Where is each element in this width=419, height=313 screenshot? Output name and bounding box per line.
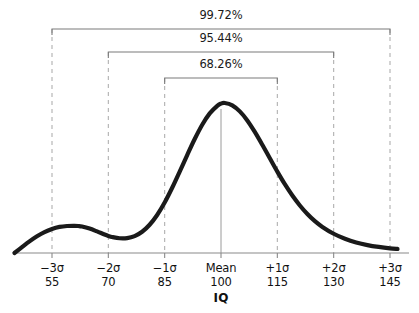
tick-value-label: 100 xyxy=(206,275,237,290)
tick-sigma-label: +3σ xyxy=(378,261,402,275)
distribution-curve xyxy=(14,103,397,253)
x-axis-tick-4: Mean100 xyxy=(206,261,237,290)
x-axis-title: IQ xyxy=(213,291,228,305)
x-axis-tick-6: +2σ130 xyxy=(322,261,346,290)
axis-tick-marks xyxy=(52,253,390,258)
x-axis-tick-3: −1σ85 xyxy=(153,261,177,290)
tick-value-label: 115 xyxy=(266,275,290,290)
tick-value-label: 85 xyxy=(153,275,177,290)
tick-sigma-label: −1σ xyxy=(153,261,177,275)
tick-value-label: 55 xyxy=(40,275,64,290)
tick-sigma-label: −3σ xyxy=(40,261,64,275)
one-sigma-span-label: 68.26% xyxy=(199,57,242,71)
tick-sigma-label: −2σ xyxy=(97,261,121,275)
tick-sigma-label: Mean xyxy=(206,261,237,275)
three-sigma-span-label: 99.72% xyxy=(199,8,242,22)
x-axis-tick-1: −3σ55 xyxy=(40,261,64,290)
x-axis-tick-7: +3σ145 xyxy=(378,261,402,290)
tick-sigma-label: +2σ xyxy=(322,261,346,275)
x-axis-tick-2: −2σ70 xyxy=(97,261,121,290)
tick-sigma-label: +1σ xyxy=(266,261,290,275)
two-sigma-span-label: 95.44% xyxy=(199,31,242,45)
tick-value-label: 130 xyxy=(322,275,346,290)
tick-value-label: 145 xyxy=(378,275,402,290)
x-axis-tick-5: +1σ115 xyxy=(266,261,290,290)
tick-value-label: 70 xyxy=(97,275,121,290)
iq-distribution-chart: 99.72%95.44%68.26% −3σ55−2σ70−1σ85Mean10… xyxy=(0,0,419,313)
